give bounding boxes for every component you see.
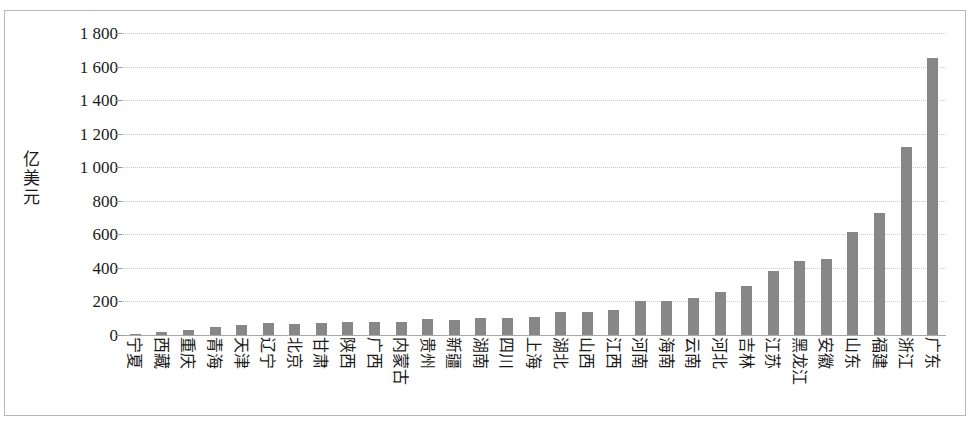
x-axis-category-label: 贵州 [419,337,435,369]
x-axis-category-label: 甘肃 [312,337,328,369]
bar [741,286,752,335]
y-axis-tick-label: 1 800 [44,25,118,42]
bar [661,301,672,335]
y-axis-tick-label: 0 [44,327,118,344]
x-axis-category-label: 内蒙古 [392,337,408,385]
bar [316,323,327,335]
bar [422,319,433,335]
x-axis-category-label: 辽宁 [259,337,275,369]
x-axis-category-label: 陕西 [339,337,355,369]
x-axis-category-label: 西藏 [153,337,169,369]
y-axis-title: 亿 美 元 [18,150,44,207]
x-axis-category-label: 广东 [924,337,940,369]
bar [794,261,805,335]
x-axis-category-label: 北京 [286,337,302,369]
bar [369,322,380,335]
bar [901,147,912,335]
bar-series [122,33,946,335]
x-axis-category-label: 江苏 [764,337,780,369]
x-axis-category-label: 安徽 [817,337,833,369]
bar [927,58,938,335]
x-axis-category-label: 上海 [525,337,541,369]
x-axis-category-label: 四川 [498,337,514,369]
y-axis-tick-mark [116,335,122,336]
x-axis-category-label: 云南 [684,337,700,369]
y-axis-tick-label: 1 600 [44,58,118,75]
y-axis-tick-label: 400 [44,259,118,276]
bar [475,318,486,335]
bar [156,332,167,335]
bar [342,322,353,335]
bar [236,325,247,335]
x-axis-category-label: 湖南 [472,337,488,369]
y-axis-title-char-2: 美 [18,169,44,188]
bar [449,320,460,335]
x-axis-category-label: 山西 [578,337,594,369]
x-axis-category-label: 吉林 [738,337,754,369]
bar [821,259,832,335]
bar [768,271,779,335]
y-axis-tick-label: 1 400 [44,92,118,109]
x-axis-category-label: 山东 [844,337,860,369]
x-axis-category-label: 湖北 [552,337,568,369]
bar [396,322,407,335]
x-axis-category-label: 天津 [233,337,249,369]
y-axis-title-char-3: 元 [18,188,44,207]
bar [529,317,540,335]
bar [289,324,300,335]
bar [263,323,274,335]
x-axis-category-label: 新疆 [445,337,461,369]
x-axis-category-labels: 宁夏西藏重庆青海天津辽宁北京甘肃陕西广西内蒙古贵州新疆湖南四川上海湖北山西江西河… [122,337,946,421]
y-axis-tick-label: 1 200 [44,125,118,142]
bar [847,232,858,335]
x-axis-category-label: 黑龙江 [791,337,807,385]
bar [502,318,513,335]
bar-chart-figure: 亿 美 元 1 8001 6001 4001 2001 000800600400… [0,0,972,423]
y-axis-tick-label: 800 [44,192,118,209]
bar [715,292,726,335]
bar [635,301,646,335]
x-axis-category-label: 江西 [605,337,621,369]
x-axis-category-label: 青海 [206,337,222,369]
y-axis-tick-label: 200 [44,293,118,310]
bar [130,334,141,335]
x-axis-category-label: 福建 [871,337,887,369]
x-axis-category-label: 河北 [711,337,727,369]
y-axis-tick-labels: 1 8001 6001 4001 2001 0008006004002000 [44,33,118,343]
bar [555,312,566,335]
bar [874,213,885,335]
x-axis-category-label: 广西 [366,337,382,369]
y-axis-title-char-1: 亿 [18,150,44,169]
axis-baseline [122,335,946,336]
bar [183,330,194,335]
bar [688,298,699,335]
x-axis-category-label: 河南 [631,337,647,369]
x-axis-category-label: 浙江 [897,337,913,369]
y-axis-tick-label: 1 000 [44,159,118,176]
bar [582,312,593,335]
bar [608,310,619,335]
x-axis-category-label: 海南 [658,337,674,369]
bar [210,327,221,335]
plot-area [122,33,946,335]
y-axis-tick-label: 600 [44,226,118,243]
x-axis-category-label: 宁夏 [126,337,142,369]
x-axis-category-label: 重庆 [179,337,195,369]
